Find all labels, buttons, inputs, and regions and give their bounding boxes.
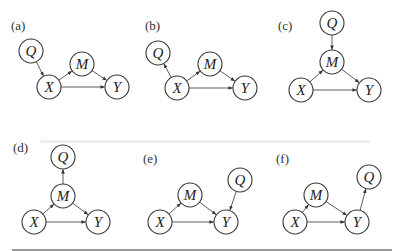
panel-e: (e)MQXY [143, 151, 252, 234]
panel-a: (a)QXMY [11, 18, 129, 99]
edge-x-to-m [187, 71, 200, 81]
node-m: M [304, 183, 328, 207]
node-m: M [51, 184, 75, 208]
node-label: M [203, 56, 218, 72]
node-label: X [171, 80, 182, 96]
node-y: Y [86, 210, 110, 234]
node-label: M [183, 187, 198, 203]
node-q: Q [146, 41, 170, 65]
panel-label: (a) [11, 18, 25, 33]
node-q: Q [51, 145, 75, 169]
node-label: Q [364, 169, 375, 185]
node-label: Q [327, 15, 338, 31]
edge-x-to-m [59, 71, 72, 80]
node-y: Y [105, 75, 129, 99]
panel-b: (b)QXMY [145, 18, 257, 100]
edge-q-to-y [230, 191, 236, 210]
node-x: X [289, 78, 313, 102]
node-label: M [56, 188, 71, 204]
figure-canvas: (a)QXMY(b)QXMY(c)QMXY(d)QMXY(e)MQXY(f)MQ… [0, 0, 404, 251]
node-m: M [320, 50, 344, 74]
node-label: X [289, 214, 300, 230]
edge-q-to-x [36, 62, 43, 76]
edge-m-to-y [326, 202, 347, 216]
node-label: M [309, 187, 324, 203]
node-x: X [283, 210, 307, 234]
node-m: M [198, 52, 222, 76]
panel-d: (d)QMXY [13, 140, 110, 234]
node-label: X [28, 214, 39, 230]
panel-label: (e) [143, 151, 157, 166]
panel-label: (d) [13, 140, 28, 155]
node-x: X [165, 76, 189, 100]
panel-c: (c)QMXY [278, 11, 381, 102]
edge-m-to-y [200, 202, 216, 214]
edge-x-to-m [43, 204, 54, 214]
panel-label: (f) [276, 151, 289, 166]
panel-label: (c) [278, 18, 292, 33]
node-label: X [295, 82, 306, 98]
node-label: Q [153, 45, 164, 61]
node-q: Q [228, 168, 252, 192]
edge-x-to-m [310, 70, 323, 82]
panel-f: (f)MQXY [276, 151, 381, 234]
node-q: Q [320, 11, 344, 35]
node-y: Y [345, 210, 369, 234]
node-y: Y [357, 78, 381, 102]
panel-label: (b) [145, 18, 160, 33]
node-label: M [325, 54, 340, 70]
edge-m-to-y [73, 203, 88, 214]
node-y: Y [214, 210, 238, 234]
node-y: Y [233, 76, 257, 100]
node-label: Q [235, 172, 246, 188]
node-q: Q [19, 39, 43, 63]
node-m: M [178, 183, 202, 207]
edge-m-to-y [92, 71, 107, 81]
node-x: X [37, 75, 61, 99]
node-q: Q [357, 165, 381, 189]
node-label: X [154, 214, 165, 230]
edge-x-to-m [169, 203, 181, 214]
node-label: X [43, 79, 54, 95]
node-label: Q [26, 43, 37, 59]
node-label: M [75, 56, 90, 72]
node-x: X [148, 210, 172, 234]
node-x: X [22, 210, 46, 234]
panels: (a)QXMY(b)QXMY(c)QMXY(d)QMXY(e)MQXY(f)MQ… [11, 11, 381, 234]
bleed-through-text-band [40, 140, 370, 143]
node-label: Q [58, 149, 69, 165]
edge-m-to-y [342, 69, 359, 82]
edge-y-to-q [360, 189, 366, 210]
edge-m-to-y [220, 71, 235, 81]
edge-x-to-q [164, 64, 171, 77]
edge-x-to-m [302, 205, 308, 213]
node-m: M [70, 52, 94, 76]
